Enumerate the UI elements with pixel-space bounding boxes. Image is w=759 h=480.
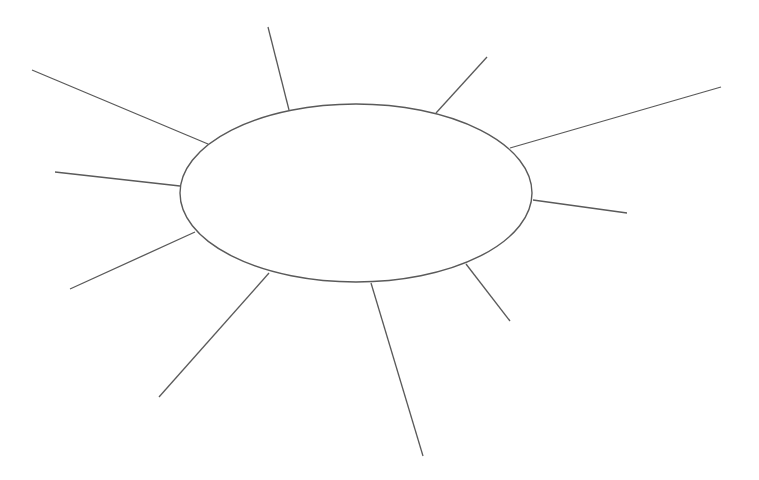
center-ellipse bbox=[180, 104, 532, 282]
branch-line-1 bbox=[32, 70, 208, 144]
branch-line-5 bbox=[55, 172, 180, 186]
branch-line-6 bbox=[533, 200, 627, 213]
spider-diagram bbox=[0, 0, 759, 480]
branch-line-2 bbox=[268, 27, 289, 110]
branch-line-9 bbox=[371, 283, 423, 456]
branch-line-3 bbox=[436, 57, 487, 113]
branch-line-8 bbox=[159, 273, 269, 397]
branch-line-10 bbox=[466, 264, 510, 321]
branch-line-4 bbox=[510, 87, 721, 148]
branch-line-7 bbox=[70, 232, 195, 289]
